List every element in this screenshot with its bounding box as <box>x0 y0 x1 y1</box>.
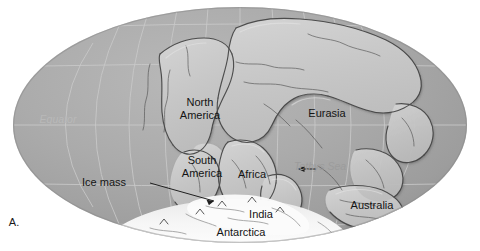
label-india-line1: India <box>249 208 273 220</box>
label-eurasia: Eurasia <box>308 107 345 119</box>
label-equator: Equator <box>40 113 77 125</box>
label-australia: Australia <box>351 199 394 211</box>
label-north-america-line2: America <box>180 108 220 121</box>
panel-letter: A. <box>9 216 19 228</box>
label-africa: Africa <box>238 168 266 180</box>
label-south-america-line2: America <box>182 166 222 179</box>
label-ice-mass: Ice mass <box>82 176 126 188</box>
label-south-america-line1: South <box>182 154 222 167</box>
label-australia-line1: Australia <box>351 199 394 211</box>
label-south-america: South America <box>182 154 222 179</box>
label-antarctica: Antarctica <box>217 226 266 238</box>
label-eurasia-line1: Eurasia <box>308 107 345 119</box>
paleogeographic-map <box>0 0 480 251</box>
label-north-america: North America <box>180 96 220 121</box>
label-tethys-sea: Tethys Sea <box>294 160 346 172</box>
label-india: India <box>249 208 273 220</box>
label-africa-line1: Africa <box>238 168 266 180</box>
label-north-america-line1: North <box>180 96 220 109</box>
label-antarctica-line1: Antarctica <box>217 226 266 238</box>
figure-panel: North America Eurasia South America Afri… <box>0 0 480 251</box>
